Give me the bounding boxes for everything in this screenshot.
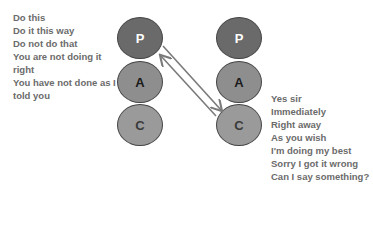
statement: Sorry I got it wrong	[271, 157, 373, 170]
statement: Can I say something?	[271, 170, 373, 183]
statement: Immediately	[271, 105, 373, 118]
arrow-left-p-to-right-c	[163, 46, 221, 110]
right-statements: Yes sir Immediately Right away As you wi…	[271, 92, 373, 183]
statement: I'm doing my best	[271, 144, 373, 157]
statement: As you wish	[271, 131, 373, 144]
statement: Right away	[271, 118, 373, 131]
statement: Yes sir	[271, 92, 373, 105]
arrow-right-c-to-left-p	[161, 56, 216, 116]
